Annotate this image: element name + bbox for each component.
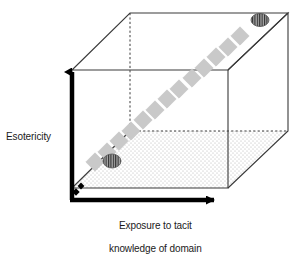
hatched-circle-low <box>103 154 121 168</box>
x-axis-label-line2: knowledge of domain <box>109 243 202 254</box>
x-axis-label: Exposure to tacit knowledge of domain <box>84 208 216 258</box>
x-axis-label-line1: Exposure to tacit <box>119 220 192 231</box>
hatched-circle-high <box>251 14 269 27</box>
y-axis-label: Esotericity <box>6 131 51 143</box>
